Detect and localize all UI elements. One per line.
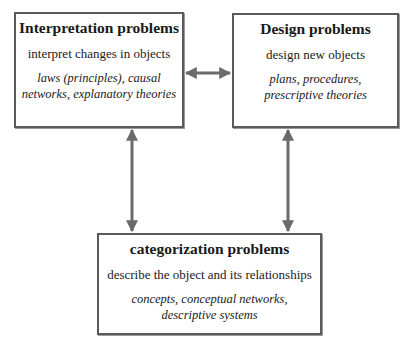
examples-line: prescriptive theories (234, 87, 397, 103)
examples-line: descriptive systems (99, 307, 320, 323)
node-examples: concepts, conceptual networks, descripti… (99, 291, 320, 323)
categorization-problems-box: categorization problems describe the obj… (97, 233, 322, 335)
examples-line: laws (principles), causal (16, 70, 182, 86)
node-description: describe the object and its relationship… (99, 267, 320, 283)
examples-line: concepts, conceptual networks, (99, 291, 320, 307)
design-problems-box: Design problems design new objects plans… (232, 13, 399, 128)
node-description: design new objects (234, 47, 397, 63)
node-title: Interpretation problems (16, 19, 182, 37)
node-examples: plans, procedures, prescriptive theories (234, 71, 397, 103)
examples-line: networks, explanatory theories (16, 86, 182, 102)
node-title: Design problems (234, 20, 397, 38)
node-description: interpret changes in objects (16, 46, 182, 62)
examples-line: plans, procedures, (234, 71, 397, 87)
interpretation-problems-box: Interpretation problems interpret change… (14, 12, 184, 128)
node-title: categorization problems (99, 240, 320, 258)
node-examples: laws (principles), causal networks, expl… (16, 70, 182, 102)
